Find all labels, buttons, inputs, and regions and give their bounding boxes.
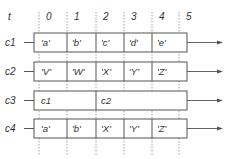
- time-tick-1: 1: [74, 11, 80, 22]
- arrow-head-icon: [217, 70, 223, 74]
- arrow-head-icon: [217, 41, 223, 45]
- channel-value: 'W': [72, 66, 86, 77]
- channel-value: 'Z': [157, 66, 168, 77]
- channel-value: 'Y': [129, 123, 140, 134]
- channel-value: 'X': [101, 66, 112, 77]
- channel-value: c2: [101, 95, 112, 106]
- channel-value: 'Y': [129, 66, 140, 77]
- channel-value: 'X': [101, 123, 112, 134]
- channel-label: c2: [5, 66, 16, 77]
- channel-row-c4: c4'a''b''X''Y''Z': [5, 119, 223, 138]
- channel-value: 'e': [157, 37, 167, 48]
- channel-row-c3: c3c1c2: [5, 91, 223, 110]
- time-tick-5: 5: [186, 11, 192, 22]
- time-tick-0: 0: [46, 11, 52, 22]
- arrow-head-icon: [217, 127, 223, 131]
- time-tick-3: 3: [131, 11, 137, 22]
- channel-row-c1: c1'a''b''c''d''e': [5, 33, 223, 52]
- channel-rows: c1'a''b''c''d''e'c2'V''W''X''Y''Z'c3c1c2…: [5, 33, 223, 138]
- channel-value: 'V': [41, 66, 52, 77]
- time-tick-4: 4: [159, 11, 165, 22]
- arrow-head-icon: [217, 99, 223, 103]
- channel-value: 'Z': [157, 123, 168, 134]
- channel-value: 'd': [129, 37, 139, 48]
- channel-value: 'b': [72, 123, 82, 134]
- channel-label: c4: [5, 123, 16, 134]
- time-axis-label: t: [8, 11, 12, 22]
- channel-value: 'a': [41, 123, 51, 134]
- time-tick-2: 2: [102, 11, 109, 22]
- channel-value: 'c': [101, 37, 111, 48]
- channel-value: 'b': [72, 37, 82, 48]
- channel-label: c1: [5, 37, 16, 48]
- channel-label: c3: [5, 95, 16, 106]
- channel-value: 'a': [41, 37, 51, 48]
- channel-row-c2: c2'V''W''X''Y''Z': [5, 62, 223, 81]
- channel-value: c1: [41, 95, 51, 106]
- time-axis: t012345: [8, 11, 192, 22]
- stream-diagram: t012345 c1'a''b''c''d''e'c2'V''W''X''Y''…: [0, 0, 233, 159]
